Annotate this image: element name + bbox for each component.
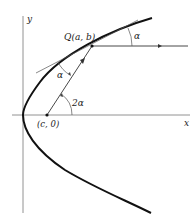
angle-arc-incident [128,28,132,46]
angle-arc-reflected-arrow-icon [68,72,71,76]
angle-arc-focal [61,94,72,115]
label-angle-reflected: α [57,70,63,80]
parabola-reflection-diagram: y x Q(a, b) (c, 0) α α 2α [0,0,194,224]
label-angle-focal: 2α [71,98,84,108]
point-focus [45,113,48,116]
x-axis-label: x [184,118,189,128]
parabola-curve [23,18,152,213]
point-Q [90,44,93,47]
label-Q: Q(a, b) [64,32,96,42]
y-axis-label: y [26,14,33,24]
incoming-ray-arrow-icon [158,44,162,48]
label-focus: (c, 0) [37,119,59,129]
tangent-line [36,20,138,73]
label-angle-incident: α [134,31,140,41]
